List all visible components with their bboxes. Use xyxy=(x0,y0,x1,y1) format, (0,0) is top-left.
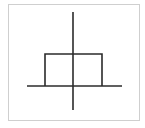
rect-pulse-diagram xyxy=(0,0,145,128)
